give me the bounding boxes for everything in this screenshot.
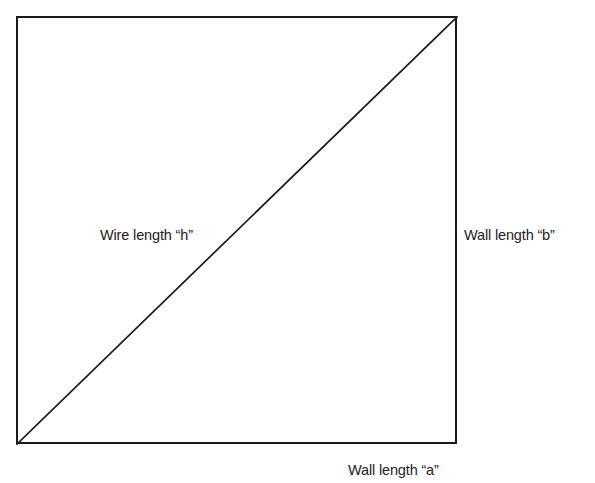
wire-diagonal-svg — [16, 16, 459, 446]
wire-diagonal-line — [17, 17, 457, 444]
label-wire-length-h: Wire length “h” — [100, 228, 193, 243]
diagram-canvas: Wire length “h” Wall length “b” Wall len… — [0, 0, 595, 483]
label-wall-length-b: Wall length “b” — [464, 228, 555, 243]
label-wall-length-a: Wall length “a” — [348, 463, 439, 478]
